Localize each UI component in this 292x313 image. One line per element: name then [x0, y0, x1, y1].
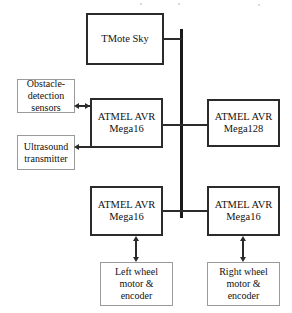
- arrowhead-mcu-to-left-wheel-icon: [133, 257, 139, 262]
- node-atmel-avr-mega16-left[interactable]: ATMEL AVR Mega16: [90, 186, 163, 236]
- block-diagram: TMote Sky Obstacle- detection sensors Ul…: [0, 0, 292, 313]
- arrowhead-left-wheel-to-mcu-icon: [133, 236, 139, 241]
- node-right-wheel-motor-encoder[interactable]: Right wheel motor & encoder: [207, 262, 280, 306]
- node-ultrasound-transmitter[interactable]: Ultrasound transmitter: [17, 135, 75, 170]
- node-tmote-sky[interactable]: TMote Sky: [86, 13, 164, 65]
- node-atmel-avr-mega16-right[interactable]: ATMEL AVR Mega16: [207, 186, 280, 236]
- link-bus-to-mega128: [182, 124, 208, 126]
- node-left-wheel-motor-encoder[interactable]: Left wheel motor & encoder: [100, 262, 173, 306]
- node-atmel-avr-mega128[interactable]: ATMEL AVR Mega128: [207, 99, 280, 147]
- node-obstacle-detection-sensors[interactable]: Obstacle- detection sensors: [17, 79, 75, 113]
- arrowhead-right-wheel-to-mcu-icon: [240, 236, 246, 241]
- arrowhead-obstacle-to-sensors-icon: [74, 103, 79, 109]
- arrowhead-to-ultrasound-icon: [74, 144, 79, 150]
- arrowhead-mcu-to-right-wheel-icon: [240, 257, 246, 262]
- link-left-mcu-to-bus: [163, 210, 182, 212]
- link-sensor-mcu-to-bus: [163, 124, 182, 126]
- link-ultrasound: [79, 146, 90, 148]
- caption-artifact: [258, 4, 260, 6]
- link-bus-to-right-mcu: [182, 210, 208, 212]
- link-tmote-to-bus: [163, 38, 182, 40]
- caption-artifact: [178, 3, 180, 5]
- node-atmel-avr-mega16-sensor[interactable]: ATMEL AVR Mega16: [90, 98, 163, 148]
- caption-artifact: [140, 3, 142, 5]
